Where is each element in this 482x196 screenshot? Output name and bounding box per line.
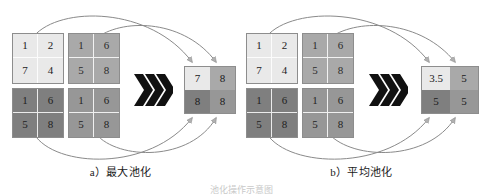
input-cell: 8 bbox=[328, 58, 353, 82]
input-cell: 5 bbox=[13, 113, 38, 137]
input-cell: 1 bbox=[247, 89, 272, 113]
panel-caption-b: b）平均池化 bbox=[241, 163, 482, 179]
input-cell: 8 bbox=[94, 58, 119, 82]
input-cell: 5 bbox=[247, 113, 272, 137]
input-cell: 7 bbox=[13, 58, 38, 82]
input-cell: 7 bbox=[247, 58, 272, 82]
output-cell-bottom-left: 5 bbox=[422, 90, 450, 113]
output-grid-b: 3.5 5 5 5 bbox=[421, 66, 479, 114]
input-cell: 1 bbox=[13, 89, 38, 113]
output-grid-a: 7 8 8 8 bbox=[184, 66, 236, 114]
input-quadrant-top-right: 1 6 5 8 bbox=[68, 33, 120, 84]
input-cell: 6 bbox=[272, 89, 297, 113]
panel-caption-a: a）最大池化 bbox=[0, 163, 241, 179]
output-cell-bottom-left: 8 bbox=[185, 90, 210, 113]
input-grid-a: 1 2 7 4 1 6 5 8 1 6 5 8 1 6 5 8 bbox=[12, 33, 120, 138]
figure-caption: 池化操作示意图 bbox=[0, 183, 482, 196]
input-cell: 1 bbox=[13, 34, 38, 58]
input-cell: 6 bbox=[328, 34, 353, 58]
output-cell-bottom-right: 8 bbox=[210, 90, 235, 113]
input-cell: 6 bbox=[94, 34, 119, 58]
pooling-figure: 1 2 7 4 1 6 5 8 1 6 5 8 1 6 5 8 bbox=[0, 0, 482, 196]
input-cell: 8 bbox=[38, 113, 63, 137]
input-quadrant-top-left: 1 2 7 4 bbox=[12, 33, 64, 84]
output-cell-top-right: 8 bbox=[210, 67, 235, 90]
input-grid-b: 1 2 7 4 1 6 5 8 1 6 5 8 1 6 5 8 bbox=[246, 33, 354, 138]
output-cell-top-left: 3.5 bbox=[422, 67, 450, 90]
input-cell: 1 bbox=[303, 89, 328, 113]
input-cell: 8 bbox=[272, 113, 297, 137]
input-cell: 2 bbox=[272, 34, 297, 58]
input-quadrant-bottom-right: 1 6 5 8 bbox=[302, 88, 354, 139]
output-cell-bottom-right: 5 bbox=[450, 90, 478, 113]
input-cell: 1 bbox=[69, 34, 94, 58]
input-cell: 5 bbox=[303, 113, 328, 137]
input-quadrant-top-right: 1 6 5 8 bbox=[302, 33, 354, 84]
triple-chevron-arrow-icon bbox=[368, 72, 408, 108]
output-cell-top-right: 5 bbox=[450, 67, 478, 90]
input-cell: 5 bbox=[69, 58, 94, 82]
input-quadrant-top-left: 1 2 7 4 bbox=[246, 33, 298, 84]
input-cell: 6 bbox=[94, 89, 119, 113]
input-cell: 5 bbox=[303, 58, 328, 82]
output-cell-top-left: 7 bbox=[185, 67, 210, 90]
panel-max-pooling: 1 2 7 4 1 6 5 8 1 6 5 8 1 6 5 8 bbox=[0, 0, 241, 196]
input-cell: 2 bbox=[38, 34, 63, 58]
input-cell: 6 bbox=[38, 89, 63, 113]
input-quadrant-bottom-left: 1 6 5 8 bbox=[12, 88, 64, 139]
panel-average-pooling: 1 2 7 4 1 6 5 8 1 6 5 8 1 6 5 8 bbox=[241, 0, 482, 196]
input-cell: 1 bbox=[69, 89, 94, 113]
input-cell: 1 bbox=[303, 34, 328, 58]
triple-chevron-arrow-icon bbox=[133, 72, 173, 108]
input-cell: 6 bbox=[328, 89, 353, 113]
input-cell: 4 bbox=[272, 58, 297, 82]
input-cell: 8 bbox=[94, 113, 119, 137]
input-cell: 4 bbox=[38, 58, 63, 82]
input-cell: 1 bbox=[247, 34, 272, 58]
input-cell: 8 bbox=[328, 113, 353, 137]
input-cell: 5 bbox=[69, 113, 94, 137]
input-quadrant-bottom-left: 1 6 5 8 bbox=[246, 88, 298, 139]
input-quadrant-bottom-right: 1 6 5 8 bbox=[68, 88, 120, 139]
